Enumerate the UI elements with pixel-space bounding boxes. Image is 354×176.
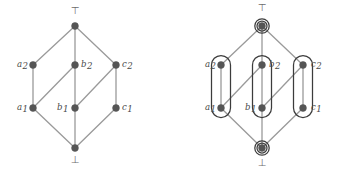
node-label-c1: c1 (311, 102, 322, 114)
node-label-bot: ⊥ (258, 157, 267, 168)
node-label-sub-a1: 1 (23, 104, 28, 114)
node-label-base-a1: a (205, 102, 210, 112)
node-label-a2: a2 (205, 59, 216, 71)
node-bot[interactable] (259, 145, 266, 152)
edge-bot-a1 (33, 108, 75, 148)
figure-root: ⊤a2b2c2a1b1c1⊥⊤a2b2c2a1b1c1⊥ (0, 0, 354, 176)
node-label-sub-c1: 1 (316, 104, 321, 114)
node-b2[interactable] (259, 62, 266, 69)
node-label-a1: a1 (17, 102, 28, 114)
node-label-top: ⊤ (258, 2, 267, 13)
node-c2[interactable] (300, 62, 307, 69)
node-label-sub-b1: 1 (63, 104, 68, 114)
nodes-layer (30, 23, 307, 152)
node-label-top: ⊤ (71, 5, 80, 16)
node-label-bot: ⊥ (71, 154, 80, 165)
node-top[interactable] (259, 23, 266, 30)
hasse-diagram-figure: ⊤a2b2c2a1b1c1⊥⊤a2b2c2a1b1c1⊥ (0, 0, 354, 176)
node-label-sub-b2: 2 (274, 61, 280, 71)
node-label-sub-c1: 1 (127, 104, 132, 114)
node-label-b2: b2 (81, 59, 92, 71)
node-c1[interactable] (113, 105, 120, 112)
node-a1[interactable] (30, 105, 37, 112)
node-label-b1: b1 (245, 102, 256, 114)
node-label-base-b1: b (57, 102, 63, 112)
edge-a1-b2 (221, 65, 262, 108)
node-label-sub-c2: 2 (126, 61, 132, 71)
node-label-sub-a2: 2 (22, 61, 28, 71)
node-label-sub-c2: 2 (315, 61, 321, 71)
node-label-base-b2: b (81, 59, 87, 69)
node-c1[interactable] (300, 105, 307, 112)
edge-bot-c1 (75, 108, 116, 148)
edge-a1-b2 (33, 65, 75, 108)
node-label-a2: a2 (17, 59, 28, 71)
edge-a2-top (221, 26, 262, 65)
node-label-sub-a2: 2 (210, 61, 216, 71)
node-label-base-b2: b (269, 59, 275, 69)
edge-b1-c2 (262, 65, 303, 108)
labels-layer: ⊤a2b2c2a1b1c1⊥⊤a2b2c2a1b1c1⊥ (17, 2, 322, 168)
node-label-b2: b2 (269, 59, 280, 71)
node-label-c2: c2 (122, 59, 133, 71)
node-label-sub-a1: 1 (211, 104, 216, 114)
node-top[interactable] (72, 23, 79, 30)
node-b1[interactable] (259, 105, 266, 112)
node-a2[interactable] (30, 62, 37, 69)
node-a1[interactable] (218, 105, 225, 112)
node-c2[interactable] (113, 62, 120, 69)
node-b2[interactable] (72, 62, 79, 69)
node-bot[interactable] (72, 145, 79, 152)
node-label-c1: c1 (122, 102, 133, 114)
node-label-base-a2: a (205, 59, 210, 69)
edges-layer (33, 26, 303, 148)
node-label-a1: a1 (205, 102, 216, 114)
node-label-sub-b1: 1 (251, 104, 256, 114)
edge-bot-c1 (262, 108, 303, 148)
node-b1[interactable] (72, 105, 79, 112)
node-label-base-b1: b (245, 102, 251, 112)
edge-a2-top (33, 26, 75, 65)
edge-b1-c2 (75, 65, 116, 108)
node-label-b1: b1 (57, 102, 68, 114)
node-label-base-a1: a (17, 102, 22, 112)
node-label-base-a2: a (17, 59, 22, 69)
node-label-sub-b2: 2 (86, 61, 92, 71)
node-a2[interactable] (218, 62, 225, 69)
